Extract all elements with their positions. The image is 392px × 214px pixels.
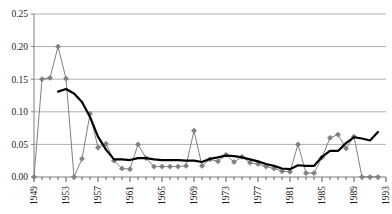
x-tick-label: 1985 — [317, 186, 327, 205]
y-tick-label: 0.25 — [11, 9, 28, 19]
y-tick-label: 0.10 — [11, 107, 28, 117]
x-tick-label: 1957 — [93, 186, 103, 205]
x-tick-label: 1953 — [61, 186, 71, 205]
x-tick-label: 1989 — [349, 186, 359, 205]
x-tick-label: 1961 — [125, 186, 135, 205]
x-tick-label: 1949 — [29, 186, 39, 205]
x-axis-minor-ticks — [34, 177, 386, 182]
x-tick-label: 1981 — [285, 186, 295, 205]
x-tick-label: 1965 — [157, 186, 167, 205]
x-tick-label: 1969 — [189, 186, 199, 205]
chart-container: 0.000.050.100.150.200.25 194919531957196… — [0, 0, 392, 214]
line-chart: 0.000.050.100.150.200.25 194919531957196… — [0, 0, 392, 214]
x-axis-tick-labels: 1949195319571961196519691973197719811985… — [29, 186, 391, 205]
y-axis-tick-labels: 0.000.050.100.150.200.25 — [11, 9, 28, 182]
y-tick-label: 0.00 — [11, 172, 28, 182]
plot-background — [34, 14, 386, 177]
y-tick-label: 0.15 — [11, 75, 28, 85]
y-tick-label: 0.20 — [11, 42, 28, 52]
x-tick-label: 1993 — [381, 186, 391, 205]
x-tick-label: 1977 — [253, 186, 263, 205]
y-tick-label: 0.05 — [11, 140, 28, 150]
x-tick-label: 1973 — [221, 186, 231, 205]
